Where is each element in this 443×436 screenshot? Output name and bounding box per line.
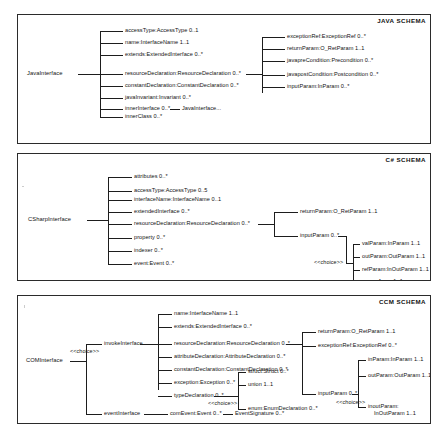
- csharp-input-line-1: [353, 257, 360, 258]
- ccm-input-line-0: [358, 360, 366, 361]
- ccm-res-line-1: [302, 346, 316, 347]
- ccm-type-child-0: struct:Struct 0..*: [248, 368, 289, 375]
- ccm-invoke-child-3: attributeDeclaration:AttributeDeclaratio…: [174, 353, 285, 360]
- csharp-root-label: CSharpInterface: [28, 216, 71, 223]
- ccm-invoke-child-2: resourceDeclaration:ResourceDeclaration …: [174, 340, 290, 347]
- csharp-choice-spine: [353, 244, 354, 281]
- panel-ccm-schema: CCM SCHEMA COMInterface <<choice>> invok…: [17, 295, 431, 424]
- ccm-res-line-0: [302, 332, 316, 333]
- csharp-child-2: interfaceName:InterfaceName 0..1: [134, 196, 221, 203]
- ccm-root-spine: [86, 344, 87, 414]
- ccm-event-child-2: EventSignature 0..*: [235, 410, 284, 417]
- csharp-res-line-0: [274, 212, 298, 213]
- ccm-res-line-2: [302, 394, 316, 395]
- ccm-input-child-2-wrap: InOutParam 1..1: [374, 410, 416, 417]
- ccm-invoke-line-0: [158, 314, 172, 315]
- ccm-invoke-spine: [158, 314, 159, 390]
- ccm-type-line-0: [238, 372, 246, 373]
- java-branch-line-2: [100, 55, 123, 56]
- java-resource-link: [246, 74, 262, 75]
- ccm-invoke-line-2: [158, 344, 172, 345]
- csharp-branch-line-7: [108, 264, 132, 265]
- ccm-branch-invoke: invokeInterface: [104, 340, 143, 347]
- ccm-type-child-1: union 1..1: [248, 381, 273, 388]
- scan-artifact: [24, 305, 25, 308]
- csharp-branch-line-1: [108, 191, 132, 192]
- csharp-input-link: [338, 236, 346, 237]
- csharp-input-child-1: outParam:OutParam 1..1: [362, 253, 425, 260]
- java-res-line-3: [262, 75, 285, 76]
- csharp-child-4: resourceDeclaration:ResourceDeclaration …: [134, 220, 250, 227]
- panel-title-ccm: CCM SCHEMA: [379, 298, 426, 305]
- csharp-child-1: accessType:AccessType 0..5: [134, 187, 207, 194]
- scan-artifact: [22, 186, 24, 187]
- ccm-event-line: [86, 414, 102, 415]
- csharp-resource-link: [258, 224, 274, 225]
- java-child-0: accessType:AccessType 0..1: [125, 27, 198, 34]
- ccm-type-line-1: [238, 385, 246, 386]
- java-branch-line-1: [100, 43, 123, 44]
- csharp-child-6: indexer 0..*: [134, 247, 163, 254]
- ccm-event-connector-2: [223, 414, 233, 415]
- ccm-input-spine: [358, 360, 359, 407]
- schema-diagram-page: JAVA SCHEMA JavaInterface accessType:Acc…: [0, 0, 443, 436]
- ccm-input-child-0: inParam:InParam 1..1: [368, 356, 423, 363]
- csharp-branch-line-4: [108, 224, 132, 225]
- ccm-root-label: COMInterface: [26, 357, 63, 364]
- ccm-type-link: [214, 396, 238, 397]
- csharp-root-connector: [87, 220, 108, 221]
- csharp-choice-label: <<choice>>: [314, 259, 343, 266]
- ccm-root-connector: [70, 361, 86, 362]
- ccm-event-connector-1: [144, 414, 168, 415]
- ccm-event-child-1: comEvent:Event 0..*: [170, 410, 222, 417]
- java-res-line-0: [262, 37, 285, 38]
- java-child-7: innerClass 0..*: [125, 113, 162, 120]
- ccm-input-choice-label: <<choice>>: [336, 399, 365, 406]
- ccm-invoke-child-1: extends:ExtendedInterface 0..*: [174, 323, 252, 330]
- java-resource-child-2: javapreCondition:Precondition 0..*: [287, 57, 373, 64]
- java-branch-line-7: [100, 117, 123, 118]
- java-branch-line-5: [100, 98, 123, 99]
- csharp-branch-line-6: [108, 251, 132, 252]
- java-res-line-4: [262, 87, 285, 88]
- ccm-invoke-line-1: [158, 327, 172, 328]
- ccm-input-child-1: outParam:OutParam 1..1: [368, 372, 431, 379]
- ccm-resource-child-0: returnParam:O_RetParam 1..1: [318, 328, 396, 335]
- java-inner-ref-line: [170, 109, 180, 110]
- ccm-invoke-child-5: exception:Exception 0..*: [174, 379, 235, 386]
- csharp-resource-child-0: returnParam:O_RetParam 1..1: [300, 208, 378, 215]
- csharp-branch-line-3: [108, 212, 132, 213]
- ccm-invoke-line: [86, 344, 102, 345]
- csharp-input-child-3: paramArray 1..1: [362, 278, 403, 281]
- csharp-choice-drop: [346, 236, 347, 263]
- csharp-input-line-0: [353, 244, 360, 245]
- ccm-resource-link: [286, 344, 302, 345]
- ccm-event-branch: eventInterface: [104, 410, 140, 417]
- ccm-invoke-line-3: [158, 357, 172, 358]
- csharp-branch-line-5: [108, 238, 132, 239]
- java-branch-line-3: [100, 74, 123, 75]
- ccm-invoke-child-0: name:InterfaceName 1..1: [174, 310, 238, 317]
- csharp-input-child-0: valParam:InParam 1..1: [362, 240, 420, 247]
- csharp-res-line-1: [274, 236, 298, 237]
- csharp-child-0: attributes 0..*: [134, 173, 168, 180]
- ccm-type-choice-label: <<choice>>: [208, 400, 237, 407]
- panel-title-java: JAVA SCHEMA: [377, 17, 426, 24]
- ccm-input-child-2: inoutParam:: [368, 403, 399, 410]
- ccm-type-spine: [238, 372, 239, 409]
- csharp-right-spine: [274, 212, 275, 236]
- csharp-input-line-2: [353, 270, 360, 271]
- java-resource-child-0: exceptionRef:ExceptionRef 0..*: [287, 33, 366, 40]
- java-branch-line-6: [100, 109, 123, 110]
- java-root-connector: [78, 74, 100, 75]
- csharp-child-3: extendedInterface 0..*: [134, 208, 190, 215]
- csharp-choice-link: [346, 263, 353, 264]
- java-child-4: constantDeclaration:ConstantDeclaration …: [125, 82, 239, 89]
- java-child-2: extends:ExtendedInterface 0..*: [125, 51, 203, 58]
- java-resource-child-3: javapostCondition:Postcondition 0..*: [287, 71, 378, 78]
- java-resource-child-4: inputParam:InParam 0..*: [287, 83, 349, 90]
- ccm-input-line-1: [358, 376, 366, 377]
- ccm-right-spine: [302, 332, 303, 394]
- java-child-1: name:InterfaceName 1..1: [125, 39, 189, 46]
- java-resource-child-1: returnParam:O_RetParam 1..1: [287, 45, 365, 52]
